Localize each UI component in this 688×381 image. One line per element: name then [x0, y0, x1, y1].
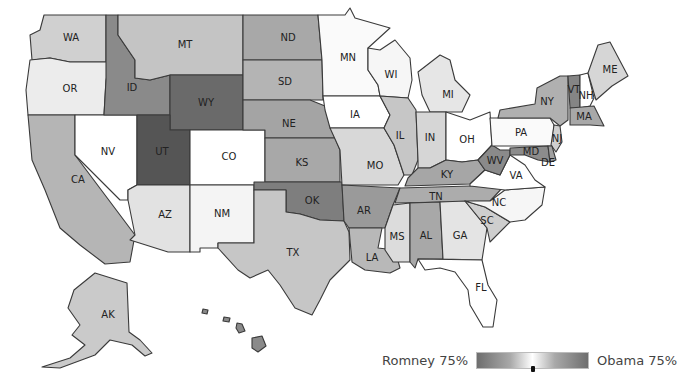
state-MA[interactable]: MA: [570, 106, 604, 126]
state-SD[interactable]: SD: [243, 60, 323, 100]
legend-gradient-bar: [476, 352, 589, 369]
state-PA[interactable]: PA: [490, 118, 554, 146]
state-MT[interactable]: MT: [118, 15, 243, 80]
state-WA[interactable]: WA: [30, 15, 106, 62]
state-HI[interactable]: [202, 309, 266, 352]
state-KS[interactable]: KS: [265, 138, 340, 182]
state-WY[interactable]: WY: [170, 75, 243, 130]
color-legend: Romney 75% Obama 75%: [382, 349, 677, 371]
state-FL[interactable]: FL: [418, 259, 497, 327]
state-MI[interactable]: MI: [418, 55, 470, 112]
state-AL[interactable]: AL: [410, 202, 443, 268]
us-election-map: WA OR CA NV ID MT WY UT AZ CO NM ND SD N…: [0, 0, 688, 381]
state-VT[interactable]: VT: [568, 75, 582, 108]
state-IA[interactable]: IA: [323, 96, 390, 128]
state-AZ[interactable]: AZ: [128, 185, 190, 252]
state-AK[interactable]: AK: [42, 273, 152, 368]
state-IN[interactable]: IN: [416, 112, 446, 168]
state-NM[interactable]: NM: [190, 185, 254, 252]
state-NY[interactable]: NY: [498, 76, 568, 126]
state-OR[interactable]: OR: [26, 58, 110, 115]
state-CO[interactable]: CO: [190, 130, 265, 185]
state-ME[interactable]: ME: [588, 42, 628, 100]
legend-midpoint-marker: [531, 366, 535, 372]
state-ND[interactable]: ND: [243, 15, 322, 60]
legend-right-label: Obama 75%: [597, 353, 677, 368]
legend-left-label: Romney 75%: [382, 353, 468, 368]
